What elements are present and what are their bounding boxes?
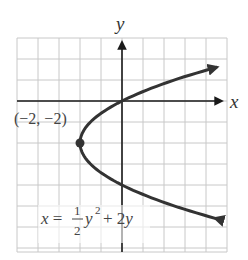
vertex-point (76, 139, 85, 148)
svg-text:1: 1 (74, 203, 81, 218)
svg-text:+ 2y: + 2y (103, 209, 133, 228)
y-axis-label: y (114, 13, 125, 34)
x-axis-label: x (229, 91, 239, 112)
vertex-label: (−2, −2) (14, 110, 67, 128)
svg-text:y: y (83, 209, 93, 228)
svg-text:2: 2 (95, 204, 101, 216)
svg-text:2: 2 (74, 223, 81, 238)
parabola-chart: x y (−2, −2) x = 1 2 y 2 + 2y (0, 0, 248, 260)
equation-label: x = 1 2 y 2 + 2y (38, 203, 150, 243)
svg-text:x =: x = (40, 209, 62, 228)
